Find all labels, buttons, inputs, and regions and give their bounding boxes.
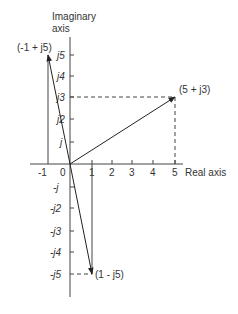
imag-tick-label: -j3: [50, 226, 62, 237]
real-tick-label: 5: [172, 167, 178, 178]
imag-ticks: [70, 55, 74, 252]
complex-plane-diagram: -1 0 1 2 3 4 5 Real axis j j2 j3 j4 j5 -…: [0, 0, 238, 314]
imag-tick-label: -j2: [50, 203, 62, 214]
vector-1-minus-j5: [70, 164, 92, 274]
point-label: (5 + j3): [179, 84, 210, 95]
imaginary-axis-label: axis: [52, 23, 70, 34]
point-label: (-1 + j5): [17, 42, 52, 53]
real-tick-label: 4: [150, 167, 156, 178]
imag-tick-label: -j4: [50, 247, 62, 258]
point-label: (1 - j5): [95, 269, 124, 280]
real-ticks: [92, 160, 175, 164]
real-tick-label: -1: [38, 167, 47, 178]
real-tick-label: 2: [109, 167, 115, 178]
imag-tick-label: j5: [55, 50, 65, 61]
vector-5-plus-j3: [70, 97, 175, 164]
real-tick-label: 0: [60, 167, 66, 178]
imaginary-axis-label: Imaginary: [52, 11, 96, 22]
imag-tick-label: j4: [55, 71, 65, 82]
real-axis-label: Real axis: [185, 167, 226, 178]
imag-tick-label: -j: [53, 182, 59, 193]
imag-tick-label: -j5: [50, 269, 62, 280]
projection-lines: [70, 97, 175, 274]
imag-tick-label: j: [58, 137, 63, 148]
real-tick-label: 3: [129, 167, 135, 178]
